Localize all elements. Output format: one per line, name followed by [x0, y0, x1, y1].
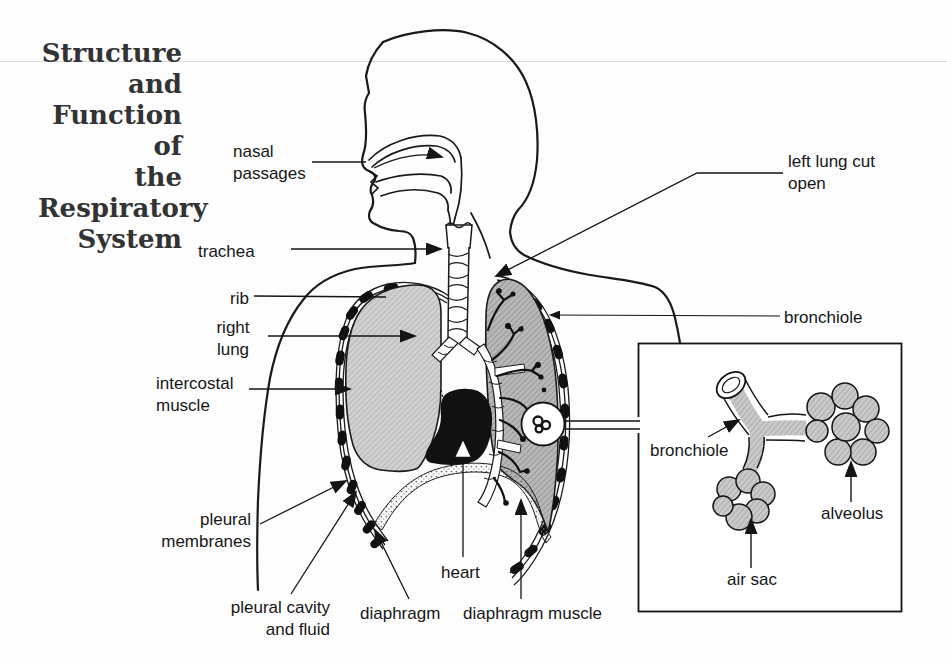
label-heart: heart [441, 562, 480, 584]
magnifier-circle [522, 403, 565, 446]
label-air-sac: air sac [727, 569, 777, 591]
body-outline [257, 30, 680, 590]
airflow-arrow [374, 155, 442, 168]
leader-pleural-cavity [291, 492, 356, 594]
label-right-lung: right lung [203, 317, 263, 361]
label-rib: rib [230, 288, 249, 310]
label-alveolus: alveolus [821, 503, 883, 525]
label-pleural-cavity-fluid: pleural cavity and fluid [217, 597, 330, 641]
textbook-page: Structure and Function of the Respirator… [0, 0, 947, 663]
label-diaphragm: diaphragm [360, 603, 440, 625]
leader-pleural-membranes [260, 481, 346, 524]
magnifier-connector [565, 421, 640, 429]
label-diaphragm-muscle: diaphragm muscle [463, 603, 602, 625]
label-pleural-membranes: pleural membranes [148, 509, 251, 553]
label-left-lung-cut-open: left lung cut open [788, 151, 880, 195]
leader-diaphragm [375, 530, 409, 599]
nasal-cavity-lines [369, 135, 490, 258]
label-nasal-passages: nasal passages [233, 141, 319, 185]
leader-bronchiole [550, 315, 780, 316]
label-intercostal-muscle: intercostal muscle [156, 373, 268, 417]
label-inset-bronchiole: bronchiole [650, 440, 728, 462]
right-lung-shape [346, 285, 441, 471]
label-trachea: trachea [198, 241, 255, 263]
label-bronchiole: bronchiole [784, 307, 862, 329]
